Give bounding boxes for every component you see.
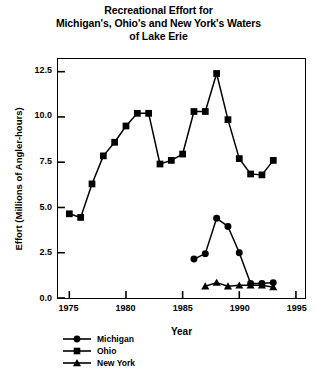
x-tick-1990: 1990 <box>220 303 260 313</box>
chart-title-line-2: Michigan's, Ohio's and New York's Waters <box>0 17 317 30</box>
legend-label-new-york: New York <box>97 357 135 369</box>
y-tick-2.5: 2.5 <box>14 247 52 257</box>
x-tick-1985: 1985 <box>163 303 203 313</box>
data-point-new-york-1988 <box>213 279 221 286</box>
data-point-michigan-1989 <box>224 223 231 230</box>
data-point-ohio-1987 <box>202 108 209 115</box>
data-point-ohio-1991 <box>247 171 254 178</box>
y-tick-7.5: 7.5 <box>14 156 52 166</box>
data-point-ohio-1988 <box>213 70 220 77</box>
triangle-marker-icon <box>62 357 92 369</box>
plot-area <box>57 58 306 299</box>
data-point-ohio-1984 <box>168 157 175 164</box>
y-tick-5.0: 5.0 <box>14 202 52 212</box>
chart-figure: Recreational Effort for Michigan's, Ohio… <box>0 0 317 373</box>
data-point-ohio-1992 <box>259 172 266 179</box>
data-point-ohio-1980 <box>123 123 130 130</box>
square-marker-icon <box>62 345 92 357</box>
x-tick-1995: 1995 <box>277 303 317 313</box>
legend-label-ohio: Ohio <box>97 345 116 357</box>
y-tick-10.0: 10.0 <box>14 110 52 120</box>
legend-label-michigan: Michigan <box>97 333 134 345</box>
y-tick-12.5: 12.5 <box>14 65 52 75</box>
x-tick-1980: 1980 <box>106 303 146 313</box>
data-point-ohio-1979 <box>111 139 118 146</box>
data-point-ohio-1978 <box>100 152 107 159</box>
chart-title-line-1: Recreational Effort for <box>0 4 317 17</box>
data-point-ohio-1982 <box>145 110 152 117</box>
data-point-michigan-1987 <box>202 250 209 257</box>
data-point-ohio-1976 <box>77 214 84 221</box>
data-point-michigan-1990 <box>236 249 243 256</box>
data-point-michigan-1988 <box>213 215 220 222</box>
data-point-ohio-1975 <box>66 210 73 217</box>
data-point-ohio-1989 <box>225 116 232 123</box>
data-point-ohio-1977 <box>89 181 96 188</box>
data-point-michigan-1986 <box>190 256 197 263</box>
chart-title-line-3: of Lake Erie <box>0 30 317 43</box>
plot-svg <box>58 59 305 298</box>
legend-item-michigan: Michigan <box>62 333 135 345</box>
data-point-ohio-1985 <box>179 151 186 158</box>
circle-marker-icon <box>62 333 92 345</box>
chart-title: Recreational Effort for Michigan's, Ohio… <box>0 4 317 43</box>
chart-legend: Michigan Ohio New York <box>62 333 135 369</box>
legend-item-new-york: New York <box>62 357 135 369</box>
y-tick-0.0: 0.0 <box>14 293 52 303</box>
y-axis-label: Effort (Millions of Angler-hours) <box>8 58 28 299</box>
legend-item-ohio: Ohio <box>62 345 135 357</box>
data-point-ohio-1993 <box>270 157 277 164</box>
data-point-ohio-1981 <box>134 110 141 117</box>
data-point-ohio-1986 <box>191 108 198 115</box>
x-tick-1975: 1975 <box>48 303 88 313</box>
data-point-ohio-1983 <box>157 161 164 168</box>
y-axis-label-text: Effort (Millions of Angler-hours) <box>13 107 24 250</box>
data-point-ohio-1990 <box>236 155 243 162</box>
